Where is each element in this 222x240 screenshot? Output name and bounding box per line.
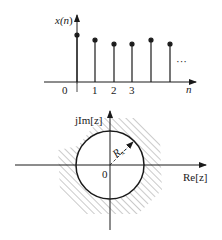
diagram-canvas: x(n) ··· n 0 1 2 3 jIm[z] Re[z] 0 Rx− xyxy=(0,0,222,240)
origin-label-bottom: 0 xyxy=(102,168,108,180)
roc-hatched-region xyxy=(0,0,222,240)
imag-axis-label: jIm[z] xyxy=(74,114,102,126)
z-plane-roc: jIm[z] Re[z] 0 Rx− xyxy=(0,0,222,240)
real-axis-label: Re[z] xyxy=(183,171,207,183)
